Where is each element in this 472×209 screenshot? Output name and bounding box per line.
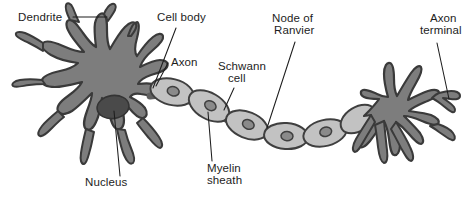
leader-schwann-cell <box>224 88 234 110</box>
label-schwann-cell: Schwann cell <box>218 60 269 84</box>
axon-terminal-arbor <box>353 63 460 163</box>
dendrite-twig-2 <box>81 129 94 164</box>
dendrite-twig-4 <box>137 118 162 148</box>
label-nucleus: Nucleus <box>85 176 127 188</box>
dendrite-arbor-left <box>12 3 167 164</box>
dendrite-twig-1 <box>38 111 64 136</box>
schwann-nucleus <box>281 131 294 141</box>
terminal-tip-hook-2 <box>430 124 455 140</box>
label-myelin-sheath: Myelin sheath <box>207 162 244 186</box>
terminal-branch-lower-1 <box>375 121 387 163</box>
dendrite-twig-6 <box>16 32 43 51</box>
dendrite-twig-8 <box>66 3 79 22</box>
leader-node-ranvier <box>267 42 295 128</box>
myelin-segments <box>148 74 381 151</box>
label-axon-terminal: Axon terminal <box>420 12 462 36</box>
dendrite-twig-7 <box>104 4 116 21</box>
myelin-segment-4 <box>263 121 309 150</box>
terminal-tip-hook <box>432 91 460 112</box>
myelinated-axon <box>148 74 381 151</box>
label-axon: Axon <box>171 56 198 68</box>
neuron-illustration: Dendrite Cell body Axon Schwann cell Nod… <box>0 0 472 209</box>
label-dendrite: Dendrite <box>18 11 62 23</box>
dendrite-twig-5 <box>12 79 45 87</box>
neuron-diagram-canvas: Dendrite Cell body Axon Schwann cell Nod… <box>0 0 472 209</box>
label-cell-body: Cell body <box>157 11 206 23</box>
dendrite-twig-3 <box>117 129 134 164</box>
label-node-of-ranvier: Node of Ranvier <box>272 12 316 36</box>
